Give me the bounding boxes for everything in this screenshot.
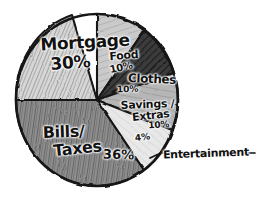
slice-label-savings-percent: 10% — [148, 120, 175, 131]
slice-label-entertainment: Entertainment — [163, 147, 249, 161]
slice-label-entertainment-percent: 4% — [134, 132, 150, 143]
slice-label-bills-line2: Taxes — [53, 139, 103, 160]
slice-label-bills-percent: 36% — [103, 147, 135, 161]
pie-chart-figure: Mortgage 30% Food 10% Clothes 10% Saving… — [0, 0, 262, 202]
slice-label-savings-extras: Savings / Extras 10% — [120, 98, 175, 131]
slice-label-bills-taxes: Bills/ Taxes — [42, 123, 101, 159]
slice-label-clothes-percent: 10% — [117, 85, 139, 95]
slice-label-food: Food 10% — [109, 49, 140, 74]
